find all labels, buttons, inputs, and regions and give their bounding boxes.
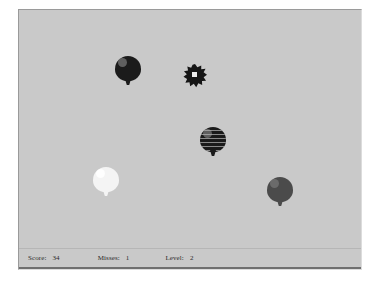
status-bar: Score: 34 Misses: 1 Level: 2 <box>19 248 361 269</box>
balloon-body <box>200 127 226 152</box>
balloon-body <box>93 167 119 192</box>
balloon-striped-center[interactable] <box>200 127 226 157</box>
balloon-knot <box>125 79 131 85</box>
balloon-body <box>267 177 293 202</box>
level-label: Level: <box>165 254 183 262</box>
balloon-knot <box>103 190 109 196</box>
balloon-pop-burst-icon[interactable] <box>183 64 207 88</box>
score-label: Score: <box>28 254 46 262</box>
balloon-highlight <box>270 179 279 188</box>
misses-value: 1 <box>126 254 130 262</box>
misses-stat: Misses: 1 <box>98 254 130 262</box>
balloon-highlight <box>118 58 127 67</box>
balloon-dark-top-left[interactable] <box>115 56 141 86</box>
balloon-knot <box>210 150 216 156</box>
score-value: 34 <box>52 254 59 262</box>
balloon-knot <box>277 200 283 206</box>
level-stat: Level: 2 <box>165 254 193 262</box>
game-play-field[interactable] <box>19 10 361 248</box>
balloon-highlight <box>96 169 105 178</box>
level-value: 2 <box>190 254 194 262</box>
balloon-white-left[interactable] <box>93 167 119 197</box>
burst-core <box>191 71 198 78</box>
misses-label: Misses: <box>98 254 120 262</box>
score-stat: Score: 34 <box>28 254 60 262</box>
balloon-highlight <box>203 129 212 138</box>
balloon-game-window: Score: 34 Misses: 1 Level: 2 <box>18 9 362 270</box>
balloon-body <box>115 56 141 81</box>
balloon-gray-bottom-right[interactable] <box>267 177 293 207</box>
